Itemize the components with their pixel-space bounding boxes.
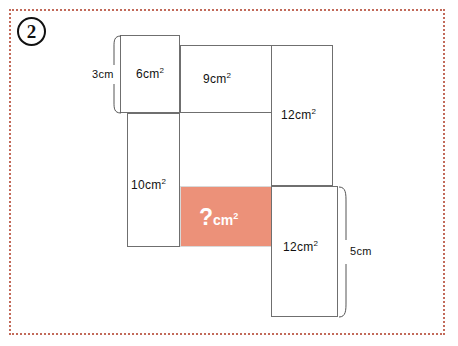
region-top-left-label-text: 6cm — [136, 67, 160, 81]
region-top-left-label-exponent: 2 — [160, 66, 165, 75]
region-right-lower-label: 12cm2 — [283, 240, 318, 254]
region-unknown-label-unit: cm — [213, 212, 233, 228]
region-right-upper-label-text: 12cm — [281, 108, 312, 122]
area-diagram: 6cm2 9cm2 12cm2 10cm2 ?cm2 12cm2 — [0, 0, 458, 346]
worksheet-page: 2 6cm2 9cm2 12cm2 10cm2 ?cm2 12cm — [0, 0, 458, 346]
region-left-lower-label-exponent: 2 — [162, 177, 167, 186]
region-top-middle-label: 9cm2 — [203, 72, 231, 86]
bracket-5cm — [338, 186, 350, 318]
region-right-lower-label-exponent: 2 — [314, 239, 319, 248]
region-top-middle-label-exponent: 2 — [227, 71, 232, 80]
region-left-lower-label-text: 10cm — [131, 178, 162, 192]
region-unknown-label: ?cm2 — [199, 204, 238, 231]
bracket-5cm-label: 5cm — [350, 245, 372, 257]
region-top-middle-label-text: 9cm — [203, 72, 227, 86]
region-right-upper-label: 12cm2 — [281, 108, 316, 122]
region-unknown-label-exponent: 2 — [233, 211, 238, 221]
region-right-lower-label-text: 12cm — [283, 240, 314, 254]
region-right-upper-label-exponent: 2 — [312, 107, 317, 116]
region-left-lower-label: 10cm2 — [131, 178, 166, 192]
region-top-left-label: 6cm2 — [136, 67, 164, 81]
bracket-3cm-label: 3cm — [92, 68, 114, 80]
region-unknown-label-value: ? — [199, 204, 213, 230]
